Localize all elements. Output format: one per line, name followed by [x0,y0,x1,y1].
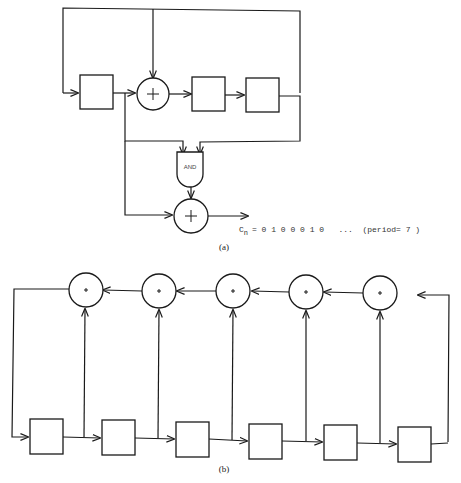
wire-b4-b5 [282,441,322,442]
wire-b1-b2 [63,437,100,438]
wire-b5-b6 [357,443,396,444]
and-gate: AND [177,152,203,187]
feedback-wire-left [12,289,69,437]
xor-adder-b1 [69,273,103,307]
wire-b2-b3 [135,438,174,439]
register-b4 [249,424,282,459]
xor-adder-a2 [174,199,208,233]
wire-xor2-xor1 [103,290,142,291]
register-b1 [30,419,63,454]
output-label: Cn= 0 1 0 0 0 1 0 ... (period= 7 ) [239,225,420,237]
diagram-b: (b) [12,273,449,474]
register-a2 [192,77,225,111]
register-a1 [80,75,113,109]
register-a3 [246,78,279,112]
diagram-a: AND Cn= 0 1 0 0 0 1 0 ... (period= 7 ) (… [63,8,420,252]
register-b3 [176,422,209,457]
lfsr-figure: AND Cn= 0 1 0 0 0 1 0 ... (period= 7 ) (… [0,0,461,483]
register-b5 [324,425,357,460]
xor-adder-b2 [142,274,176,308]
feedback-wire-right [418,295,449,442]
wire-b6-out [431,443,448,444]
caption-a: (a) [219,242,229,252]
xor-adder-b5 [363,276,397,310]
wire-xor5-xor4 [324,292,363,293]
and-gate-label: AND [184,164,197,170]
xor-adder-b3 [216,274,250,308]
wire-reg1-output-xor [125,141,172,215]
tap-b1 [84,309,85,437]
register-b6 [398,427,431,462]
wire-xor4-xor3 [252,291,289,292]
xor-adder-a1 [137,78,169,110]
tap-b3 [232,310,233,440]
xor-adder-b4 [289,275,323,309]
caption-b: (b) [219,464,230,474]
wire-b3-b4 [209,439,247,441]
register-b2 [102,420,135,455]
tap-b2 [158,310,159,438]
